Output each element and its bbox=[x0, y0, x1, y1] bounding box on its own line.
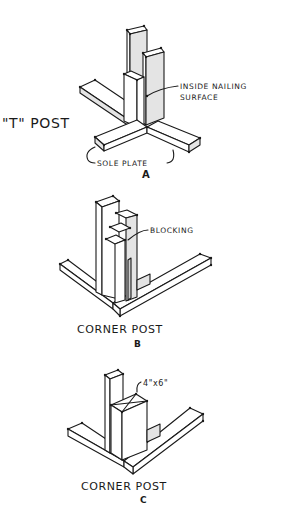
leader-4x6 bbox=[137, 382, 141, 392]
inside-nailing-surface bbox=[146, 52, 164, 125]
figure-b-corner-post: BLOCKING CORNER POST B bbox=[59, 195, 212, 349]
surface-label: SURFACE bbox=[180, 93, 218, 102]
sole-plate-label: SOLE PLATE bbox=[97, 159, 148, 168]
figure-c-corner-post: 4"x6" CORNER POST C bbox=[67, 369, 204, 505]
figure-b-title: CORNER POST bbox=[77, 323, 163, 336]
figure-b-letter: B bbox=[134, 339, 141, 349]
figure-a-letter: A bbox=[142, 169, 150, 180]
inside-nailing-label: INSIDE NAILING bbox=[180, 82, 247, 91]
framing-diagram: "T" POST INSIDE NAILING SURFACE SOLE PLA… bbox=[0, 0, 291, 517]
leader-sole-plate-left bbox=[87, 147, 95, 163]
figure-c-title: CORNER POST bbox=[81, 480, 167, 493]
post-4x6-left-face bbox=[111, 405, 122, 460]
stud-front-face bbox=[124, 74, 137, 127]
post-4x6-right-face bbox=[122, 401, 147, 460]
figure-a-t-post: "T" POST INSIDE NAILING SURFACE SOLE PLA… bbox=[2, 25, 247, 180]
leader-sole-plate-right bbox=[167, 150, 174, 163]
blocking-label: BLOCKING bbox=[150, 226, 194, 235]
dimension-4x6-label: 4"x6" bbox=[143, 379, 168, 388]
t-post-title: "T" POST bbox=[2, 115, 70, 131]
figure-c-letter: C bbox=[140, 495, 147, 505]
